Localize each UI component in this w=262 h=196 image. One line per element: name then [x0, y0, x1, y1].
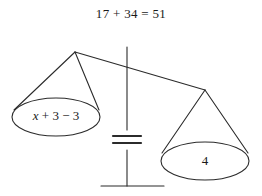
left-pan-expression: x + 3 − 3	[12, 108, 100, 124]
right-pan-string-inner	[205, 90, 248, 153]
right-pan-string-outer	[162, 90, 205, 153]
left-pan-string-inner	[75, 52, 99, 110]
balance-beam	[75, 52, 205, 90]
left-pan-terms: + 3 − 3	[39, 108, 80, 123]
left-pan-string-outer	[14, 52, 75, 110]
right-pan-value: 4	[160, 153, 250, 169]
diagram-canvas: 17 + 34 = 51 x + 3	[0, 0, 262, 196]
